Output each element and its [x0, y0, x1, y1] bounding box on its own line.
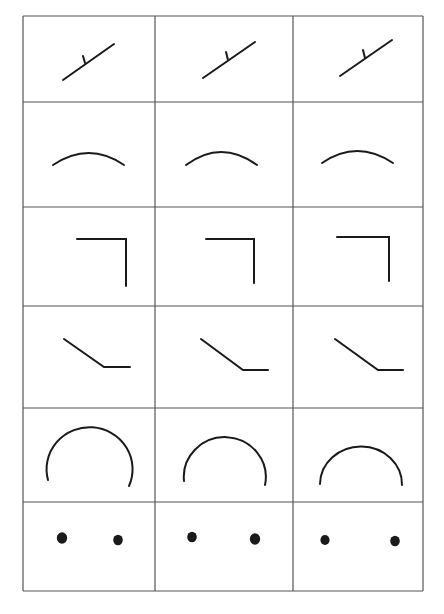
cell-line-with-tick-2 — [203, 42, 255, 78]
shallow-arc — [322, 151, 393, 163]
cell-bent-line-2 — [201, 339, 268, 370]
bent-line — [64, 339, 130, 367]
dot — [390, 536, 400, 547]
diagonal-line — [63, 44, 114, 80]
cell-bent-line-3 — [335, 339, 403, 370]
grid-shapes — [47, 40, 403, 546]
cell-bent-line-1 — [64, 339, 130, 367]
cropped-header-text — [0, 0, 444, 4]
right-angle-corner — [206, 239, 254, 283]
cell-two-dots-2 — [187, 532, 260, 545]
bent-line — [335, 339, 403, 370]
tick-mark — [83, 56, 85, 63]
tick-mark — [363, 50, 365, 58]
cell-line-with-tick-1 — [63, 44, 114, 80]
dot — [250, 533, 260, 544]
large-arc — [320, 446, 402, 485]
dot — [113, 535, 123, 546]
grid-lines — [23, 16, 423, 591]
cell-shallow-arc-1 — [53, 153, 124, 165]
cell-shallow-arc-3 — [322, 151, 393, 163]
cell-two-dots-1 — [57, 532, 123, 545]
large-arc — [47, 427, 133, 486]
cell-large-arc-1 — [47, 427, 133, 486]
right-angle-corner — [77, 239, 126, 286]
cell-right-angle-corner-3 — [337, 237, 389, 281]
cell-line-with-tick-3 — [340, 40, 392, 76]
dot — [187, 532, 197, 543]
cell-large-arc-2 — [184, 437, 266, 485]
cell-large-arc-3 — [320, 446, 402, 485]
cell-shallow-arc-2 — [186, 152, 257, 165]
bent-line — [201, 339, 268, 370]
cell-two-dots-3 — [320, 535, 399, 546]
dot — [320, 535, 329, 545]
figure-stage — [0, 0, 444, 614]
large-arc — [184, 437, 266, 485]
tick-mark — [226, 52, 228, 60]
right-angle-corner — [337, 237, 389, 281]
stimulus-grid — [0, 0, 444, 614]
cell-right-angle-corner-1 — [77, 239, 126, 286]
dot — [57, 532, 67, 543]
cell-right-angle-corner-2 — [206, 239, 254, 283]
shallow-arc — [53, 153, 124, 165]
shallow-arc — [186, 152, 257, 165]
